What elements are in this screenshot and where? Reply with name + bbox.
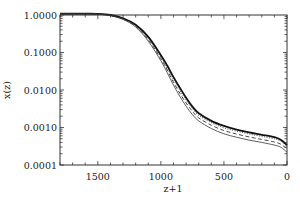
series-line-dashed [60,14,287,149]
y-tick-label: 0.0100 [24,85,57,96]
x-axis-label: z+1 [163,183,182,194]
series-line-solid-thick [60,14,287,145]
y-axis-ticks: 1.00000.10000.01000.00100.0001 [24,10,287,171]
series-line-dotted [60,14,287,146]
chart: 150010005000 1.00000.10000.01000.00100.0… [0,0,300,203]
x-axis-ticks: 150010005000 [60,15,290,182]
y-tick-label: 1.0000 [24,10,57,21]
y-axis-label: x(z) [1,81,12,99]
y-tick-label: 0.0010 [24,122,57,133]
y-tick-label: 0.1000 [24,47,57,58]
data-curves [60,14,287,152]
plot-frame [60,15,287,165]
x-tick-label: 500 [215,171,233,182]
x-tick-label: 0 [284,171,290,182]
x-tick-label: 1500 [86,171,110,182]
y-tick-label: 0.0001 [24,160,57,171]
x-tick-label: 1000 [149,171,173,182]
